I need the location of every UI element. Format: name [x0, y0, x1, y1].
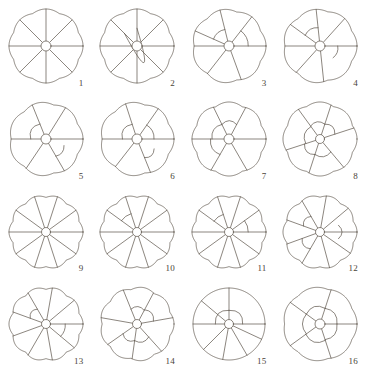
radial-septum — [49, 210, 75, 229]
radial-septum — [20, 50, 43, 73]
radial-septum — [126, 196, 136, 227]
radial-septum — [231, 328, 247, 355]
radial-septum — [321, 51, 324, 82]
figure-cell: 1 — [0, 0, 92, 93]
central-axis-circle — [224, 320, 233, 329]
cross-section-figure — [93, 95, 181, 183]
curved-partition — [307, 306, 326, 314]
radial-septum — [291, 24, 317, 43]
radial-septum — [139, 196, 149, 227]
figure-number-label: 16 — [349, 357, 358, 366]
curved-partition — [315, 152, 331, 157]
radial-septum — [111, 50, 134, 73]
radial-septum — [139, 293, 153, 320]
radial-septum — [34, 196, 44, 227]
figure-number-label: 4 — [353, 79, 358, 88]
radial-septum — [140, 328, 161, 352]
radial-septum — [321, 236, 329, 267]
curved-partition — [30, 309, 37, 318]
radial-septum — [230, 196, 240, 227]
central-axis-circle — [132, 134, 142, 144]
radial-septum — [302, 200, 318, 227]
radial-septum — [291, 303, 317, 322]
radial-septum — [49, 301, 74, 322]
figure-cell: 3 — [183, 0, 275, 93]
radial-septum — [16, 210, 42, 229]
curved-partition — [60, 324, 65, 336]
radial-septum — [309, 143, 319, 173]
radial-septum — [213, 107, 226, 134]
figure-cell: 15 — [183, 278, 275, 371]
curved-partition — [122, 213, 132, 220]
radial-septum — [199, 210, 225, 229]
radial-septum — [324, 234, 351, 253]
central-axis-circle — [316, 134, 325, 143]
radial-septum — [322, 290, 332, 319]
radial-septum — [322, 329, 332, 358]
radial-septum — [324, 208, 349, 229]
figure-number-label: 2 — [170, 79, 175, 88]
figure-number-label: 13 — [74, 357, 83, 366]
cross-section-figure — [2, 2, 90, 90]
curved-partition — [333, 46, 338, 58]
radial-septum — [111, 20, 134, 43]
radial-septum — [49, 234, 75, 253]
radial-septum — [13, 326, 42, 336]
curved-partition — [131, 307, 144, 311]
radial-septum — [141, 210, 167, 229]
radial-septum — [203, 327, 225, 349]
curved-partition — [123, 334, 135, 342]
figure-number-label: 10 — [166, 264, 175, 273]
curved-partition — [305, 144, 316, 155]
figure-cell: 2 — [92, 0, 184, 93]
figure-number-label: 8 — [353, 172, 358, 181]
curved-partition — [30, 124, 40, 139]
curved-partition — [241, 31, 248, 46]
central-axis-circle — [315, 41, 325, 51]
radial-septum — [48, 108, 65, 135]
curved-partition — [210, 139, 220, 155]
radial-septum — [321, 196, 327, 228]
curved-partition — [325, 324, 337, 340]
central-axis-circle — [41, 227, 50, 236]
radial-septum — [48, 143, 64, 170]
radial-septum — [217, 196, 227, 227]
figure-cell: 6 — [92, 93, 184, 186]
figure-cell: 9 — [0, 186, 92, 279]
radial-septum — [322, 105, 332, 135]
central-axis-circle — [41, 134, 51, 144]
radial-septum — [230, 236, 240, 267]
radial-septum — [232, 17, 252, 42]
radial-septum — [199, 234, 225, 253]
radial-septum — [107, 234, 133, 253]
radial-septum — [49, 20, 72, 43]
radial-septum — [297, 50, 317, 73]
cross-section-figure — [2, 188, 90, 276]
figure-number-label: 11 — [257, 264, 266, 273]
radial-septum — [195, 31, 224, 44]
figure-number-label: 9 — [79, 264, 84, 273]
curved-partition — [214, 214, 223, 221]
radial-septum — [324, 19, 345, 43]
curved-partition — [122, 124, 132, 139]
figure-number-label: 15 — [257, 357, 266, 366]
radial-septum — [13, 312, 42, 322]
radial-septum — [325, 128, 355, 138]
radial-septum — [107, 210, 133, 229]
radial-septum — [141, 20, 164, 43]
curved-partition — [305, 28, 318, 36]
radial-septum — [139, 236, 149, 267]
radial-septum — [291, 327, 317, 346]
radial-septum — [287, 219, 316, 229]
radial-septum — [47, 329, 53, 360]
curved-partition — [302, 238, 310, 248]
central-axis-circle — [41, 320, 50, 329]
radial-septum — [28, 293, 44, 320]
radial-septum — [142, 318, 173, 324]
figure-cell: 10 — [92, 186, 184, 279]
curved-partition — [306, 335, 326, 343]
radial-septum — [47, 288, 53, 319]
curved-partition — [222, 120, 237, 124]
curved-partition — [147, 125, 154, 139]
radial-septum — [20, 20, 43, 43]
